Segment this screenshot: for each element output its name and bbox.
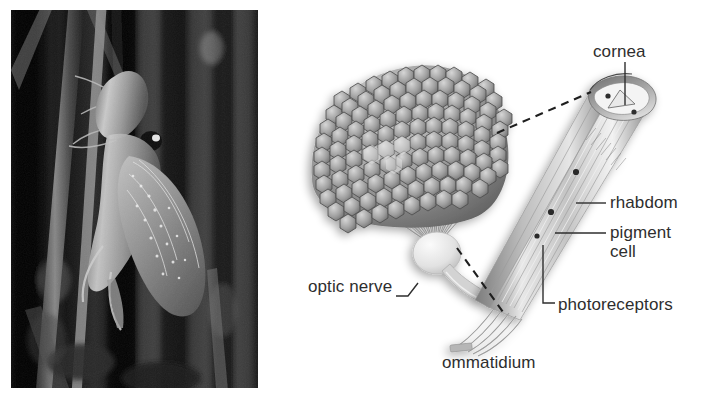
insect-photo	[11, 10, 258, 388]
leader-optic-nerve	[396, 283, 418, 296]
label-photoreceptors: photoreceptors	[558, 295, 673, 314]
compound-eye-diagram-panel: cornea rhabdom pigment cell photorecepto…	[290, 0, 707, 401]
pigment-granule-2	[631, 109, 636, 114]
figure-root: cornea rhabdom pigment cell photorecepto…	[0, 0, 707, 401]
axon-base-plate	[450, 343, 473, 352]
label-ommatidium: ommatidium	[442, 353, 536, 372]
insect-photograph-panel	[11, 10, 258, 388]
cornea-cap	[588, 74, 656, 121]
optic-nerve-bulb	[413, 232, 486, 300]
label-rhabdom: rhabdom	[610, 193, 678, 212]
rhabdom-dot-2	[548, 209, 554, 215]
pigment-granule-1	[605, 93, 610, 98]
label-pigment-cell-line2: cell	[610, 242, 636, 261]
label-pigment-cell: pigment cell	[610, 223, 702, 261]
rhabdom-dot-1	[573, 169, 579, 175]
label-cornea: cornea	[593, 42, 646, 61]
label-pigment-cell-line1: pigment	[610, 223, 671, 242]
rhabdom-dot-3	[534, 233, 539, 238]
compound-eye-group	[312, 65, 512, 300]
label-optic-nerve: optic nerve	[308, 277, 392, 296]
